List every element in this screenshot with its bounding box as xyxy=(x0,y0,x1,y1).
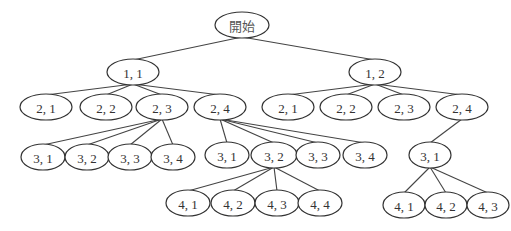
tree-node: 2, 4 xyxy=(194,94,246,120)
node-label: 2, 2 xyxy=(336,101,356,116)
tree-edge xyxy=(274,167,320,191)
tree-node: 2, 4 xyxy=(436,94,488,120)
node-label: 3, 1 xyxy=(217,149,237,164)
tree-node: 3, 1 xyxy=(409,142,451,168)
node-label: 4, 4 xyxy=(310,197,330,212)
node-label: 4, 3 xyxy=(267,197,287,212)
tree-edge xyxy=(87,119,162,145)
tree-node: 1, 1 xyxy=(107,59,159,85)
node-label: 1, 1 xyxy=(123,66,143,81)
tree-edge xyxy=(220,119,318,143)
node-label: 4, 1 xyxy=(178,197,198,212)
node-label: 4, 2 xyxy=(436,199,456,214)
node-label: 4, 3 xyxy=(478,199,498,214)
tree-node: 1, 2 xyxy=(349,59,401,85)
node-label: 開始 xyxy=(229,19,255,34)
tree-edge xyxy=(220,119,365,143)
tree-node: 4, 1 xyxy=(166,190,210,216)
tree-edge xyxy=(162,119,173,145)
tree-node: 3, 4 xyxy=(343,142,387,168)
node-label: 3, 1 xyxy=(33,151,53,166)
tree-edge xyxy=(233,167,274,191)
root-node: 開始 xyxy=(215,12,269,38)
tree-node: 2, 1 xyxy=(262,94,314,120)
tree-edge xyxy=(274,167,277,191)
node-label: 3, 3 xyxy=(308,149,328,164)
node-label: 2, 3 xyxy=(152,101,172,116)
tree-node: 4, 4 xyxy=(298,190,342,216)
tree-edge xyxy=(404,167,430,193)
tree-node: 3, 3 xyxy=(296,142,340,168)
tree-node: 2, 3 xyxy=(136,94,188,120)
tree-node: 3, 2 xyxy=(251,142,297,168)
tree-node: 2, 3 xyxy=(378,94,430,120)
node-label: 3, 1 xyxy=(420,149,440,164)
tree-nodes: 開始1, 11, 22, 12, 22, 32, 42, 12, 22, 32,… xyxy=(20,12,509,218)
node-label: 2, 4 xyxy=(452,101,472,116)
node-label: 2, 4 xyxy=(210,101,230,116)
tree-edge xyxy=(242,37,375,60)
node-label: 2, 1 xyxy=(278,101,298,116)
node-label: 3, 2 xyxy=(77,151,97,166)
tree-node: 4, 1 xyxy=(383,192,425,218)
node-label: 3, 4 xyxy=(163,151,183,166)
tree-node: 3, 4 xyxy=(151,144,195,170)
node-label: 2, 1 xyxy=(36,101,56,116)
node-label: 1, 2 xyxy=(365,66,385,81)
tree-node: 2, 1 xyxy=(20,94,72,120)
tree-node: 3, 3 xyxy=(108,144,152,170)
tree-edge xyxy=(220,119,227,143)
tree-edge xyxy=(133,37,242,60)
tree-node: 3, 2 xyxy=(65,144,109,170)
node-label: 4, 2 xyxy=(223,197,243,212)
tree-node: 2, 2 xyxy=(80,94,132,120)
node-label: 2, 2 xyxy=(96,101,116,116)
tree-node: 3, 1 xyxy=(205,142,249,168)
node-label: 3, 3 xyxy=(120,151,140,166)
node-label: 3, 4 xyxy=(355,149,375,164)
tree-node: 4, 3 xyxy=(467,192,509,218)
tree-node: 2, 2 xyxy=(320,94,372,120)
node-label: 3, 2 xyxy=(264,149,284,164)
tree-edge xyxy=(220,119,274,143)
tree-node: 4, 2 xyxy=(211,190,255,216)
tree-node: 4, 3 xyxy=(255,190,299,216)
node-label: 4, 1 xyxy=(394,199,414,214)
tree-edge xyxy=(188,167,274,191)
tree-edge xyxy=(430,119,462,143)
tree-edge xyxy=(430,167,488,193)
tree-node: 4, 2 xyxy=(425,192,467,218)
tree-node: 3, 1 xyxy=(21,144,65,170)
tree-diagram: 開始1, 11, 22, 12, 22, 32, 42, 12, 22, 32,… xyxy=(0,0,511,231)
tree-edge xyxy=(43,119,162,145)
node-label: 2, 3 xyxy=(394,101,414,116)
